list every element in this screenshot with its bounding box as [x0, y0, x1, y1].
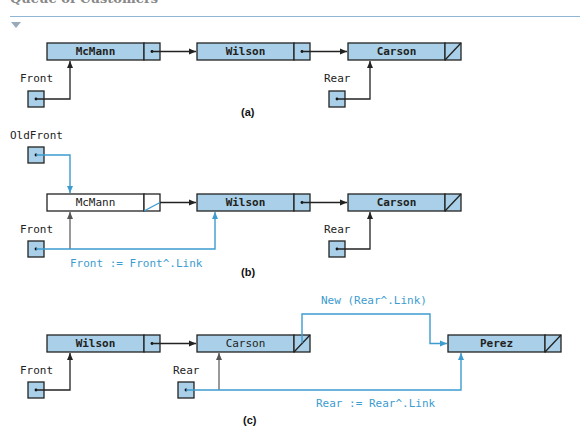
diagram-canvas [0, 0, 580, 435]
caption-c: (c) [243, 414, 256, 426]
front-pointer-label: Front [20, 364, 53, 377]
oldfront-pointer-label: OldFront [10, 129, 63, 142]
front-pointer-label: Front [20, 223, 53, 236]
operation-rear-link: Rear := Rear^.Link [316, 397, 435, 410]
node-a-3: Carson [348, 45, 445, 58]
node-b-2: Wilson [197, 196, 294, 209]
node-b-3: Carson [348, 196, 445, 209]
caption-a: (a) [241, 106, 254, 118]
operation-new-link: New (Rear^.Link) [321, 294, 427, 307]
rear-pointer-label: Rear [324, 223, 351, 236]
operation-front-link: Front := Front^.Link [70, 257, 202, 270]
front-pointer-label: Front [20, 72, 53, 85]
rear-pointer-label: Rear [173, 364, 200, 377]
node-a-2: Wilson [197, 45, 294, 58]
node-c-2: Carson [197, 337, 294, 350]
rear-pointer-label: Rear [324, 72, 351, 85]
node-b-1: McMann [47, 196, 144, 209]
node-a-1: McMann [47, 45, 144, 58]
node-c-3: Perez [448, 337, 545, 350]
caption-b: (b) [241, 266, 255, 278]
node-c-1: Wilson [47, 337, 144, 350]
